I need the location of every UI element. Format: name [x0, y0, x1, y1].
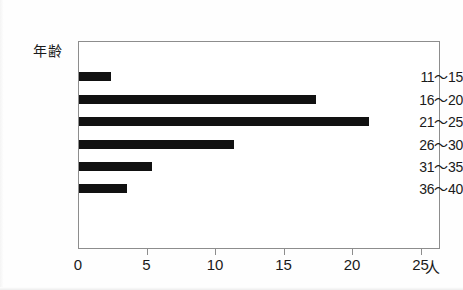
y-axis-category-label: 31〜35	[389, 156, 463, 176]
x-axis-tick-label: 20	[344, 256, 361, 273]
x-axis-tick	[147, 249, 148, 255]
y-axis-category-label: 21〜25	[389, 111, 463, 131]
x-axis-tick	[421, 249, 422, 255]
x-axis-tick-label: 10	[207, 256, 224, 273]
page-left-edge	[0, 0, 4, 290]
y-axis-category-label: 26〜30	[389, 134, 463, 154]
bar	[79, 162, 152, 171]
y-axis-category-label: 16〜20	[389, 89, 463, 109]
scanned-page: 年齢 11〜1516〜2021〜2526〜3031〜3536〜40 051015…	[0, 0, 463, 290]
y-axis-category-label: 36〜40	[389, 178, 463, 198]
y-axis-category-label: 11〜15	[389, 66, 463, 86]
x-axis-tick-label: 0	[74, 256, 82, 273]
bar	[79, 72, 111, 81]
bar	[79, 184, 127, 193]
bar	[79, 140, 234, 149]
x-axis-tick-label: 5	[142, 256, 150, 273]
bar	[79, 117, 369, 126]
x-axis-tick	[284, 249, 285, 255]
x-axis-tick	[215, 249, 216, 255]
bar	[79, 95, 316, 104]
y-axis-title: 年齢	[33, 40, 62, 60]
x-axis-unit-label: 人	[425, 256, 440, 277]
x-axis-tick-label: 15	[275, 256, 292, 273]
x-axis-tick	[352, 249, 353, 255]
